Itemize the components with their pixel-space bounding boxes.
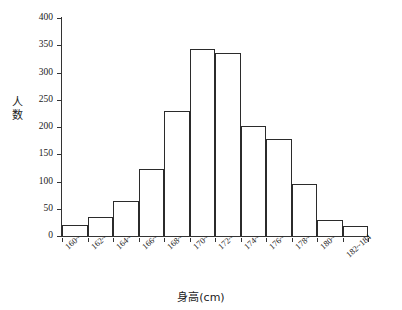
y-axis-tick-label: 0 <box>48 229 53 242</box>
y-axis-tick: 0 <box>57 236 62 237</box>
y-axis-tick-label: 300 <box>39 66 53 79</box>
y-axis-tick: 50 <box>57 209 62 210</box>
x-axis-tick <box>88 238 89 242</box>
plot-area: 050100150200250300350400 <box>62 18 368 236</box>
x-axis-tick <box>368 238 369 242</box>
x-axis-tick-labels: 160~162~164~166~168~170~172~174~176~178~… <box>62 238 372 290</box>
x-axis-tick <box>62 238 63 242</box>
bar <box>190 49 216 236</box>
x-axis-tick <box>266 238 267 242</box>
y-axis-tick: 250 <box>57 100 62 101</box>
bar <box>292 184 318 236</box>
bar <box>139 169 165 236</box>
x-axis-tick <box>190 238 191 242</box>
bar <box>241 126 267 236</box>
x-axis-tick <box>241 238 242 242</box>
y-axis-title: 人数 <box>8 96 26 122</box>
y-axis-tick-label: 50 <box>44 202 54 215</box>
bar <box>113 201 139 236</box>
y-axis-tick: 300 <box>57 73 62 74</box>
y-axis-tick-label: 200 <box>39 120 53 133</box>
x-axis-tick <box>139 238 140 242</box>
x-axis-tick <box>343 238 344 242</box>
x-axis-title: 身高(cm) <box>0 288 402 304</box>
bar <box>164 111 190 236</box>
x-axis-tick <box>292 238 293 242</box>
y-axis-tick-label: 150 <box>39 147 53 160</box>
y-axis-tick-label: 250 <box>39 93 53 106</box>
y-axis-tick-label: 100 <box>39 175 53 188</box>
x-axis-tick <box>317 238 318 242</box>
y-axis-tick: 150 <box>57 154 62 155</box>
y-axis-tick: 100 <box>57 182 62 183</box>
y-axis-tick: 400 <box>57 18 62 19</box>
x-axis-line <box>61 236 369 237</box>
bar <box>266 139 292 236</box>
y-axis-tick: 350 <box>57 45 62 46</box>
y-axis-tick: 200 <box>57 127 62 128</box>
x-axis-tick <box>215 238 216 242</box>
x-axis-tick <box>164 238 165 242</box>
x-axis-tick <box>113 238 114 242</box>
y-axis-tick-label: 400 <box>39 11 53 24</box>
y-axis-tick-label: 350 <box>39 38 53 51</box>
histogram-chart: 人数 050100150200250300350400 160~162~164~… <box>0 0 402 310</box>
bar <box>215 53 241 236</box>
